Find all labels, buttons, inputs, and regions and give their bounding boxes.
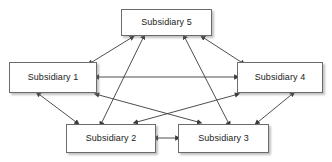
edge-s4-s2	[137, 95, 235, 122]
edge-s1-s3	[99, 95, 198, 122]
node-subsidiary-3[interactable]: Subsidiary 3	[178, 124, 269, 153]
edge-s3-s5	[185, 38, 228, 122]
edge-s1-s2	[40, 95, 76, 122]
node-subsidiary-1[interactable]: Subsidiary 1	[9, 62, 97, 93]
node-label-subsidiary-3: Subsidiary 3	[198, 134, 249, 143]
node-label-subsidiary-2: Subsidiary 2	[86, 134, 137, 143]
node-subsidiary-2[interactable]: Subsidiary 2	[66, 124, 156, 153]
node-label-subsidiary-5: Subsidiary 5	[141, 18, 192, 27]
edge-s1-s5	[92, 38, 131, 62]
diagram-canvas: Subsidiary 5 Subsidiary 1 Subsidiary 4 S…	[0, 0, 332, 162]
edge-s2-s5	[102, 38, 143, 122]
node-subsidiary-5[interactable]: Subsidiary 5	[121, 9, 212, 36]
node-label-subsidiary-1: Subsidiary 1	[28, 73, 79, 82]
node-label-subsidiary-4: Subsidiary 4	[255, 73, 306, 82]
edge-s4-s3	[258, 95, 291, 122]
node-subsidiary-4[interactable]: Subsidiary 4	[237, 62, 323, 93]
edge-s4-s5	[204, 38, 241, 62]
